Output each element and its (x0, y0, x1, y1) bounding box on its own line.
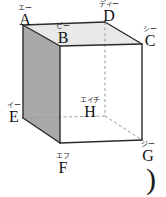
cube-drawing (0, 0, 166, 197)
cube-figure: エー A ビー B シー C ディー D イー E エフ F ジー G エイチ … (0, 0, 166, 197)
front-face (60, 44, 142, 143)
closing-paren-mark: ) (146, 164, 156, 194)
